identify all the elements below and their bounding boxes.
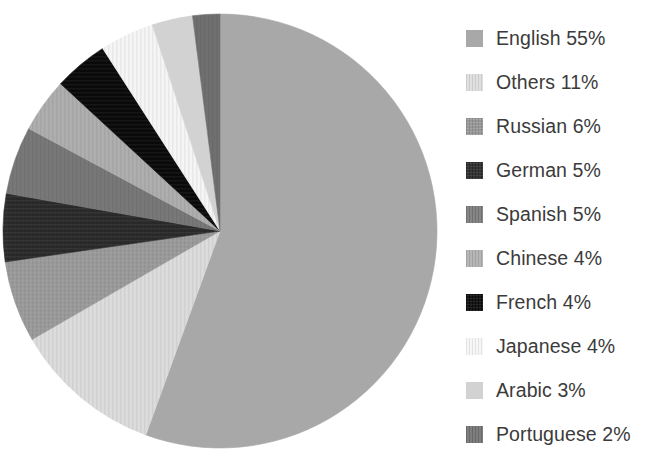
legend-item-german[interactable]: German 5% — [466, 148, 646, 192]
pie-chart-plot-area — [0, 0, 446, 472]
legend-label-english: English 55% — [496, 27, 606, 50]
legend-swatch-german — [466, 162, 483, 179]
pie-chart-figure: English 55%Others 11%Russian 6%German 5%… — [0, 0, 646, 472]
legend-item-chinese[interactable]: Chinese 4% — [466, 236, 646, 280]
legend-label-arabic: Arabic 3% — [496, 379, 586, 402]
legend-label-french: French 4% — [496, 291, 591, 314]
legend-label-german: German 5% — [496, 159, 601, 182]
legend-swatch-russian — [466, 118, 483, 135]
legend-item-english[interactable]: English 55% — [466, 16, 646, 60]
legend-label-chinese: Chinese 4% — [496, 247, 602, 270]
pie-slice-group — [3, 14, 437, 448]
legend-item-french[interactable]: French 4% — [466, 280, 646, 324]
legend-label-japanese: Japanese 4% — [496, 335, 615, 358]
legend-swatch-spanish — [466, 206, 483, 223]
legend-swatch-arabic — [466, 382, 483, 399]
chart-legend: English 55%Others 11%Russian 6%German 5%… — [466, 16, 646, 456]
legend-swatch-portuguese — [466, 426, 483, 443]
legend-item-russian[interactable]: Russian 6% — [466, 104, 646, 148]
legend-item-arabic[interactable]: Arabic 3% — [466, 368, 646, 412]
legend-label-others: Others 11% — [496, 71, 599, 94]
legend-swatch-french — [466, 294, 483, 311]
legend-item-portuguese[interactable]: Portuguese 2% — [466, 412, 646, 456]
legend-item-others[interactable]: Others 11% — [466, 60, 646, 104]
legend-swatch-others — [466, 74, 483, 91]
legend-swatch-chinese — [466, 250, 483, 267]
legend-item-japanese[interactable]: Japanese 4% — [466, 324, 646, 368]
legend-swatch-japanese — [466, 338, 483, 355]
legend-swatch-english — [466, 30, 483, 47]
legend-label-spanish: Spanish 5% — [496, 203, 601, 226]
legend-item-spanish[interactable]: Spanish 5% — [466, 192, 646, 236]
legend-label-russian: Russian 6% — [496, 115, 601, 138]
legend-label-portuguese: Portuguese 2% — [496, 423, 631, 446]
pie-chart-svg — [0, 0, 446, 472]
